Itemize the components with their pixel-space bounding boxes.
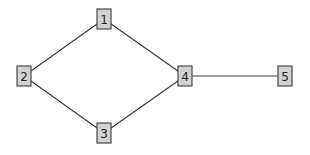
edge-1-2 [24,19,104,76]
graph-diagram: 12345 [0,0,310,155]
node-label: 2 [20,70,28,84]
node-label: 5 [281,70,289,84]
node-label: 4 [181,70,189,84]
node-label: 3 [100,127,108,141]
node-2: 2 [17,66,31,86]
edge-1-4 [104,19,185,76]
node-4: 4 [178,66,192,86]
node-3: 3 [97,123,111,143]
edges-layer [24,19,285,133]
edge-3-4 [104,76,185,133]
node-5: 5 [278,66,292,86]
node-1: 1 [97,9,111,29]
edge-2-3 [24,76,104,133]
node-label: 1 [100,13,108,27]
